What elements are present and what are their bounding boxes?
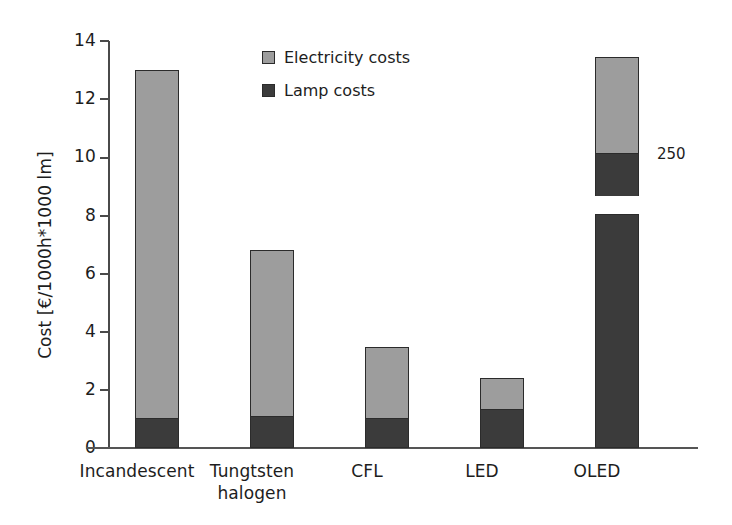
bar-segment-electricity-led[interactable] — [480, 378, 524, 410]
x-tick-label-tungtsten-halogen-line2: halogen — [177, 482, 327, 504]
y-tick-label-4: 4 — [56, 323, 96, 340]
y-tick-label-10: 10 — [56, 148, 96, 165]
bar-segment-lamp-cfl[interactable] — [365, 418, 409, 448]
y-tick-label-6-text: 6 — [62, 265, 96, 282]
lamp-swatch-icon — [262, 84, 275, 97]
bar-segment-electricity-cfl[interactable] — [365, 347, 409, 419]
bar-segment-lamp-oled-upper[interactable] — [595, 153, 639, 197]
bar-segment-electricity-tungtsten-halogen[interactable] — [250, 250, 294, 417]
bar-segment-electricity-oled[interactable] — [595, 57, 639, 154]
bar-chart: Cost [€/1000h*1000 lm] 14 12 10 8 6 4 2 … — [0, 0, 732, 525]
y-tick-label-12: 12 — [56, 90, 96, 107]
chart-legend: Electricity costs Lamp costs — [262, 48, 410, 114]
electricity-swatch-icon — [262, 51, 275, 64]
bar-segment-lamp-tungtsten-halogen[interactable] — [250, 416, 294, 448]
y-tick-label-14: 14 — [56, 32, 96, 49]
legend-item-lamp-costs[interactable]: Lamp costs — [262, 81, 410, 100]
bar-segment-lamp-incandescent[interactable] — [135, 418, 179, 448]
legend-label-lamp-costs: Lamp costs — [284, 81, 375, 100]
x-tick-label-oled-line1: OLED — [522, 460, 672, 482]
bar-segment-electricity-incandescent[interactable] — [135, 70, 179, 419]
y-tick-label-4-text: 4 — [62, 323, 96, 340]
legend-item-electricity-costs[interactable]: Electricity costs — [262, 48, 410, 67]
y-tick-label-8: 8 — [56, 207, 96, 224]
y-tick-label-2: 2 — [56, 381, 96, 398]
bar-segment-lamp-oled-lower[interactable] — [595, 214, 639, 448]
axis-break-gap-oled — [595, 196, 639, 215]
y-tick-label-8-text: 8 — [62, 207, 96, 224]
y-tick-label-6: 6 — [56, 265, 96, 282]
y-tick-label-10-text: 10 — [62, 148, 96, 165]
y-tick-label-2-text: 2 — [62, 381, 96, 398]
bar-annotation-250: 250 — [657, 145, 686, 163]
legend-label-electricity-costs: Electricity costs — [284, 48, 410, 67]
y-tick-label-12-text: 12 — [62, 90, 96, 107]
bar-segment-lamp-led[interactable] — [480, 409, 524, 448]
y-tick-label-14-text: 14 — [62, 32, 96, 49]
y-axis-title: Cost [€/1000h*1000 lm] — [35, 105, 55, 405]
x-tick-label-oled: OLED — [522, 460, 672, 482]
